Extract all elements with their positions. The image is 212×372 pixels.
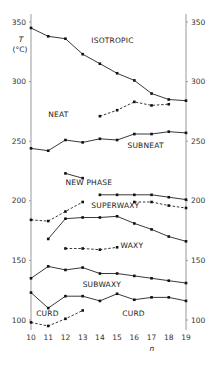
y-tick-label-left: 100 <box>12 316 27 325</box>
data-point <box>47 238 50 241</box>
data-point <box>64 210 67 213</box>
data-point <box>167 296 170 299</box>
data-point <box>99 248 102 251</box>
data-point <box>81 53 84 56</box>
data-point <box>167 196 170 199</box>
y-tick-label-right: 250 <box>191 137 206 146</box>
data-point <box>167 204 170 207</box>
series-line <box>31 293 186 309</box>
data-point <box>133 101 136 104</box>
data-point <box>185 132 188 135</box>
data-point <box>30 277 33 280</box>
data-point <box>116 292 119 295</box>
data-point <box>167 98 170 101</box>
data-point <box>99 138 102 141</box>
data-point <box>99 216 102 219</box>
data-point <box>167 279 170 282</box>
data-point <box>150 201 153 204</box>
data-point <box>116 246 119 249</box>
y-tick-label-right: 150 <box>191 256 206 265</box>
data-point <box>133 222 136 225</box>
series-subwaxy-lower <box>30 291 188 309</box>
y-tick-label-left: 250 <box>12 137 27 146</box>
series-line <box>100 102 169 116</box>
series-line <box>48 216 186 241</box>
data-point <box>30 147 33 150</box>
y-tick-label-right: 300 <box>191 77 206 86</box>
data-point <box>150 296 153 299</box>
phase-diagram-chart: 1001502002503003501001502002503003501011… <box>0 0 212 372</box>
data-point <box>116 139 119 142</box>
phase-label-waxy: WAXY <box>121 241 144 250</box>
data-point <box>30 321 33 324</box>
data-point <box>150 133 153 136</box>
series-superwaxy-upper-dashed <box>133 201 187 210</box>
data-point <box>47 35 50 38</box>
x-tick-label: 15 <box>112 333 122 342</box>
data-point <box>185 240 188 243</box>
phase-label-new-phase: NEW PHASE <box>65 178 112 187</box>
series-line <box>65 247 117 249</box>
data-point <box>81 201 84 204</box>
y-tick-label-left: 150 <box>12 256 27 265</box>
series-neat-upper-dashed <box>99 101 170 118</box>
data-point <box>30 27 33 30</box>
y-tick-label-left: 300 <box>12 77 27 86</box>
y-tick-label-right: 350 <box>191 18 206 27</box>
data-point <box>64 172 67 175</box>
data-point <box>133 79 136 82</box>
x-tick-label: 18 <box>164 333 174 342</box>
phase-label-isotropic: ISOTROPIC <box>91 36 133 45</box>
data-point <box>185 99 188 102</box>
x-tick-label: 16 <box>130 333 140 342</box>
series-superwaxy-upper <box>99 194 188 201</box>
data-point <box>64 318 67 321</box>
x-tick-label: 14 <box>95 333 105 342</box>
series-superwaxy-lower <box>47 215 187 243</box>
data-point <box>150 92 153 95</box>
data-point <box>99 62 102 65</box>
data-point <box>133 298 136 301</box>
data-point <box>150 228 153 231</box>
phase-label-curd: CURD <box>36 309 59 318</box>
data-point <box>64 139 67 142</box>
data-point <box>81 266 84 269</box>
data-point <box>47 149 50 152</box>
data-point <box>133 133 136 136</box>
x-tick-label: 13 <box>78 333 88 342</box>
data-point <box>116 272 119 275</box>
data-point <box>150 104 153 107</box>
series-line <box>134 202 186 208</box>
data-point <box>64 269 67 272</box>
annotations-group: ISOTROPICNEATSUBNEATNEW PHASESUPERWAXYWA… <box>36 36 164 318</box>
phase-label-superwaxy: SUPERWAXY <box>91 201 139 210</box>
phase-label-curd: CURD <box>122 309 145 318</box>
data-point <box>64 247 67 250</box>
data-point <box>116 194 119 197</box>
data-point <box>64 37 67 40</box>
data-point <box>81 141 84 144</box>
data-point <box>133 194 136 197</box>
data-point <box>185 300 188 303</box>
data-point <box>167 103 170 106</box>
data-point <box>185 207 188 210</box>
y-tick-label-right: 200 <box>191 196 206 205</box>
phase-label-subwaxy: SUBWAXY <box>83 280 122 289</box>
data-point <box>81 309 84 312</box>
data-point <box>30 219 33 222</box>
phase-label-neat: NEAT <box>48 110 68 119</box>
data-point <box>64 295 67 298</box>
series-line <box>100 195 186 200</box>
x-tick-label: 19 <box>181 333 191 342</box>
y-tick-label-right: 100 <box>191 316 206 325</box>
data-point <box>99 300 102 303</box>
data-point <box>185 282 188 285</box>
data-point <box>47 325 50 328</box>
data-point <box>116 72 119 75</box>
data-point <box>47 265 50 268</box>
y-axis-title: T <box>19 35 25 44</box>
data-point <box>81 216 84 219</box>
phase-label-subneat: SUBNEAT <box>127 141 163 150</box>
x-tick-label: 10 <box>26 333 36 342</box>
x-tick-label: 17 <box>147 333 157 342</box>
